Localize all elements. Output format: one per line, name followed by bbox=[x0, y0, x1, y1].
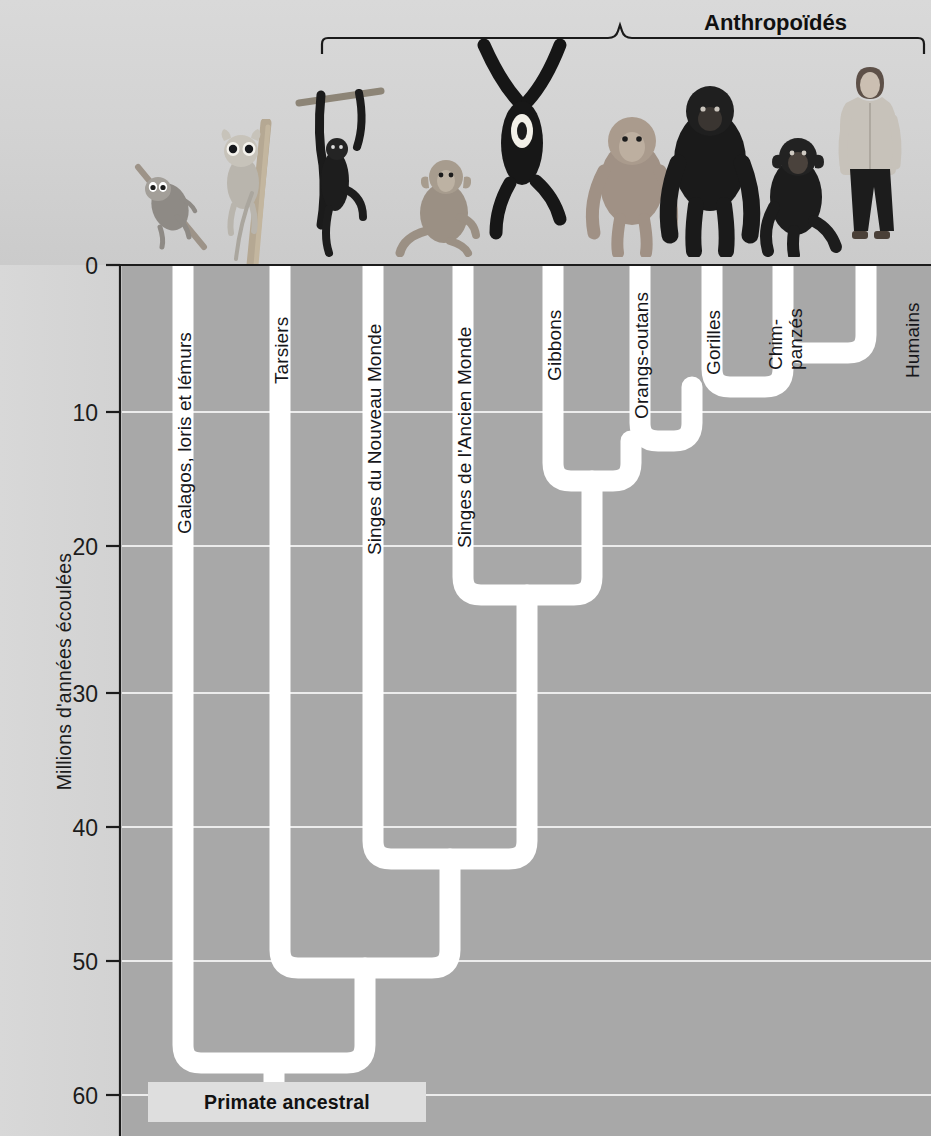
anthropoid-label-text: Anthropoïdés bbox=[704, 10, 847, 35]
anthropoid-bracket-label: Anthropoïdés bbox=[0, 10, 931, 36]
illustration-band: Anthropoïdés bbox=[0, 0, 931, 265]
tree-svg bbox=[122, 265, 931, 1136]
human-illustration bbox=[834, 57, 906, 257]
root-label-box: Primate ancestral bbox=[148, 1082, 426, 1122]
chimpanzee-illustration bbox=[752, 127, 844, 257]
root-label-text: Primate ancestral bbox=[204, 1091, 370, 1114]
tip-label-gibbons: Gibbons bbox=[545, 310, 565, 381]
tip-label-galagos: Galagos, loris et lémurs bbox=[175, 332, 195, 534]
tree-branches bbox=[183, 265, 866, 1082]
tip-label-chimpanzees: Chim- panzés bbox=[766, 308, 806, 370]
loris-illustration bbox=[130, 157, 212, 253]
tip-label-old-world-monkeys: Singes de l'Ancien Monde bbox=[455, 326, 475, 548]
spider-monkey-illustration bbox=[295, 69, 391, 259]
tip-label-tarsiers: Tarsiers bbox=[272, 317, 292, 384]
gorilla-illustration bbox=[654, 77, 766, 257]
tip-label-gorillas: Gorilles bbox=[704, 310, 724, 375]
tree-plot-area bbox=[122, 265, 931, 1136]
tip-label-orangutans: Orangs-outans bbox=[632, 292, 652, 419]
tip-label-humans: Humains bbox=[903, 302, 923, 378]
tarsier-illustration bbox=[212, 119, 290, 265]
tip-label-new-world-monkeys: Singes du Nouveau Monde bbox=[365, 323, 385, 555]
gibbon-illustration bbox=[468, 35, 580, 247]
y-axis-title: Millions d'années écoulées bbox=[53, 512, 76, 832]
phylogeny-figure: Anthropoïdés bbox=[0, 0, 931, 1136]
